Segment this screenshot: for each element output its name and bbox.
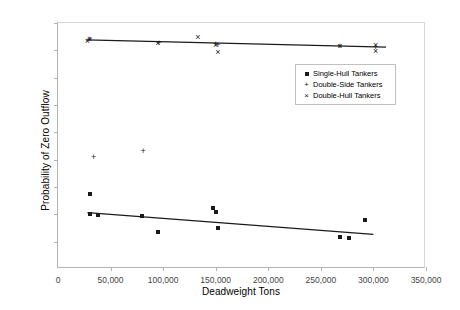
data-point-x: × (373, 46, 378, 55)
data-point-plus: + (91, 152, 96, 161)
data-point-x: × (87, 35, 92, 44)
x-tick-label: 300,000 (358, 275, 389, 285)
x-axis-title: Deadweight Tons (57, 286, 425, 297)
legend-x-icon: × (300, 90, 313, 101)
legend-item: ×Double-Hull Tankers (300, 90, 391, 101)
legend-plus-icon: + (300, 79, 313, 90)
x-tick-label: 100,000 (148, 275, 179, 285)
legend-item: Single-Hull Tankers (300, 68, 391, 79)
data-point-square (214, 210, 218, 214)
chart-legend: Single-Hull Tankers+Double-Side Tankers×… (295, 64, 396, 105)
data-point-square (88, 212, 92, 216)
data-point-plus: + (141, 147, 146, 156)
data-point-square (347, 236, 351, 240)
chart-figure: Probability of Zero Outflow Deadweight T… (0, 0, 460, 310)
data-point-square (156, 230, 160, 234)
legend-label: Double-Side Tankers (313, 80, 383, 89)
plot-area: 00.10.20.30.40.50.60.70.80.9 050,000100,… (57, 22, 425, 268)
legend-label: Single-Hull Tankers (313, 69, 377, 78)
legend-square-icon (300, 68, 313, 79)
data-point-square (96, 213, 100, 217)
data-point-square (363, 218, 367, 222)
trendline (87, 213, 373, 235)
data-point-x: × (195, 33, 200, 42)
legend-item: +Double-Side Tankers (300, 79, 391, 90)
data-point-square (88, 192, 92, 196)
data-point-x: × (215, 48, 220, 57)
x-tick-label: 250,000 (305, 275, 336, 285)
data-point-square (216, 226, 220, 230)
data-point-x: × (155, 39, 160, 48)
x-tick-mark (426, 267, 427, 271)
trendlines (58, 23, 426, 269)
x-tick-label: 50,000 (98, 275, 124, 285)
data-point-x: × (337, 42, 342, 51)
data-point-square (338, 235, 342, 239)
y-axis-title: Probability of Zero Outflow (40, 31, 51, 271)
legend-label: Double-Hull Tankers (313, 91, 380, 100)
x-tick-label: 150,000 (200, 275, 231, 285)
x-tick-label: 0 (56, 275, 61, 285)
x-tick-label: 350,000 (411, 275, 442, 285)
data-point-square (140, 214, 144, 218)
x-tick-label: 200,000 (253, 275, 284, 285)
